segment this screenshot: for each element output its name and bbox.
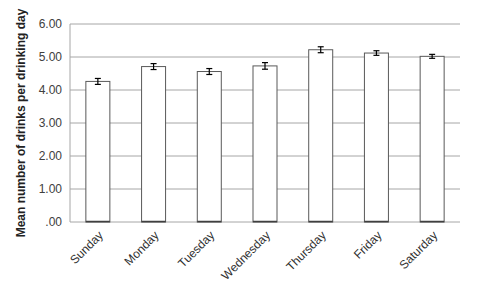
bar-thursday (309, 47, 333, 222)
bar-rect (86, 81, 110, 222)
y-axis-label: Mean number of drinks per drinking day (14, 8, 28, 237)
x-tick-label: Wednesday (219, 228, 274, 283)
bar-monday (142, 64, 166, 222)
bar-tuesday (197, 69, 221, 222)
y-tick-label: 3.00 (39, 116, 63, 130)
bar-rect (309, 50, 333, 222)
bar-rect (197, 72, 221, 222)
bar-rect (142, 67, 166, 222)
x-axis-labels: SundayMondayTuesdayWednesdayThursdayFrid… (67, 228, 440, 283)
x-tick-label: Thursday (284, 228, 329, 273)
y-axis-ticks: .001.002.003.004.005.006.00 (39, 17, 63, 229)
bar-sunday (86, 78, 110, 222)
bar-friday (364, 51, 388, 222)
y-tick-label: 2.00 (39, 149, 63, 163)
x-tick-label: Monday (122, 228, 162, 268)
bar-wednesday (253, 63, 277, 222)
y-tick-label: 5.00 (39, 50, 63, 64)
bar-rect (253, 66, 277, 222)
bar-chart: .001.002.003.004.005.006.00 SundayMonday… (0, 0, 480, 299)
bars (86, 47, 444, 222)
x-tick-label: Sunday (67, 228, 106, 267)
bar-saturday (420, 54, 444, 222)
y-tick-label: .00 (45, 215, 62, 229)
x-tick-label: Tuesday (175, 228, 217, 270)
y-tick-label: 6.00 (39, 17, 63, 31)
y-tick-label: 1.00 (39, 182, 63, 196)
y-tick-label: 4.00 (39, 83, 63, 97)
x-tick-label: Friday (351, 228, 384, 261)
bar-rect (364, 53, 388, 222)
bar-rect (420, 56, 444, 222)
x-tick-label: Saturday (396, 228, 440, 272)
